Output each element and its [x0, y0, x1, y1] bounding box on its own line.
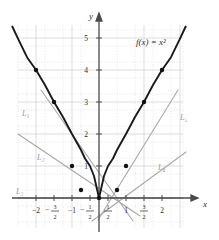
point-05-025 [115, 188, 119, 192]
y-tick-3: 3 [84, 98, 88, 107]
point-neg2-4 [34, 68, 38, 72]
y-tick-4: 4 [84, 66, 88, 75]
y-tick-5: 5 [84, 34, 88, 43]
y-tick-1: 1 [84, 162, 88, 171]
point-0-0 [97, 196, 101, 200]
x-tick-neg1: −1 [68, 206, 76, 215]
label-L3: L₃ [15, 187, 23, 196]
y-axis-label: y [88, 11, 93, 21]
svg-text:3: 3 [54, 204, 57, 210]
point-neg15-225 [52, 100, 56, 104]
svg-text:2: 2 [54, 214, 57, 220]
function-label: f(x) = x² [136, 37, 166, 47]
label-L4: L₄ [157, 163, 165, 172]
point-neg05-025 [79, 188, 83, 192]
x-tick-2: 2 [160, 206, 164, 215]
label-L2: L₂ [36, 153, 44, 162]
graph-figure: x y f(x) = x² 1 2 3 4 5 −2 −1 1 2 − 3 2 … [0, 0, 219, 240]
y-tick-2: 2 [84, 130, 88, 139]
svg-text:−: − [80, 205, 84, 214]
svg-text:1: 1 [107, 204, 110, 210]
svg-text:−: − [45, 205, 49, 214]
point-1-1 [124, 164, 128, 168]
svg-text:2: 2 [107, 214, 110, 220]
label-L5: L₅ [179, 113, 187, 122]
svg-text:2: 2 [143, 214, 146, 220]
svg-text:1: 1 [89, 204, 92, 210]
label-L1: L₁ [21, 109, 29, 118]
parabola-plot: x y f(x) = x² 1 2 3 4 5 −2 −1 1 2 − 3 2 … [0, 0, 219, 240]
x-tick-1: 1 [124, 206, 128, 215]
point-2-4 [160, 68, 164, 72]
point-neg1-1 [70, 164, 74, 168]
x-tick-neg2: −2 [32, 206, 40, 215]
svg-text:3: 3 [143, 204, 146, 210]
point-15-225 [142, 100, 146, 104]
svg-text:2: 2 [89, 214, 92, 220]
x-axis-label: x [202, 199, 207, 209]
